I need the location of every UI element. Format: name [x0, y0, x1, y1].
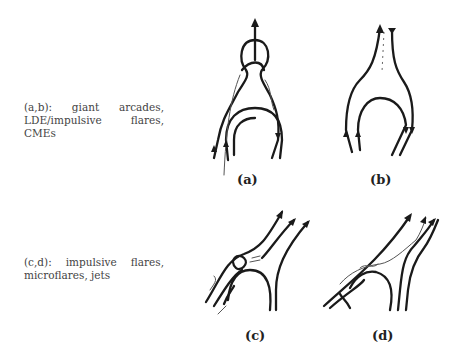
diagram-panel-a [200, 0, 330, 200]
caption-ab: (a,b): giant arcades, LDE/impulsive flar… [24, 101, 164, 140]
panel-label-a: (a) [237, 172, 258, 187]
panel-label-c: (c) [245, 328, 265, 343]
caption-cd: (c,d): impulsive flares, microflares, je… [24, 256, 164, 282]
panel-label-d: (d) [372, 328, 393, 343]
panel-label-b: (b) [370, 172, 391, 187]
diagram-panel-b [320, 0, 460, 200]
